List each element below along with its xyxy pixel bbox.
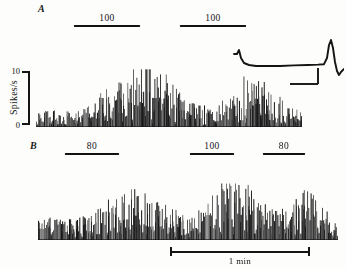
y-axis-bracket: 10 0	[22, 71, 30, 125]
stimulus-epoch-b1: 80	[65, 141, 119, 157]
stimulus-label-a1: 100	[74, 13, 140, 23]
spike-histogram-trace-b	[38, 168, 338, 240]
panel-label-b: B	[30, 140, 37, 151]
y-axis-cap-bottom	[22, 123, 30, 125]
action-potential-waveform-icon	[234, 40, 344, 75]
time-scale-label: 1 min	[170, 256, 310, 266]
stimulus-epoch-b3: 80	[263, 141, 305, 157]
stimulus-label-a2: 100	[180, 13, 246, 23]
stimulus-bar-b2	[190, 153, 234, 155]
stimulus-bar-a1	[74, 25, 140, 27]
panel-label-a: A	[38, 3, 45, 14]
y-axis-title: Spikes/s	[8, 75, 19, 121]
stimulus-bar-a2	[180, 25, 246, 27]
time-scale-endcap-right	[308, 247, 310, 256]
stimulus-bar-b3	[263, 153, 305, 155]
time-scale-line	[170, 251, 310, 253]
y-axis-line	[28, 71, 30, 125]
stimulus-label-b1: 80	[65, 141, 119, 151]
figure-root: A 100 100 10 0 Spikes/s B 80 100 80	[0, 0, 347, 269]
stimulus-epoch-b2: 100	[190, 141, 234, 157]
stimulus-label-b3: 80	[263, 141, 305, 151]
stimulus-epoch-a2: 100	[180, 13, 246, 29]
time-scale-bar: 1 min	[170, 247, 310, 267]
y-axis-tick-0: 0	[16, 120, 22, 130]
action-potential-inset	[232, 38, 344, 86]
stimulus-epoch-a1: 100	[74, 13, 140, 29]
stimulus-label-b2: 100	[190, 141, 234, 151]
stimulus-bar-b1	[65, 153, 119, 155]
